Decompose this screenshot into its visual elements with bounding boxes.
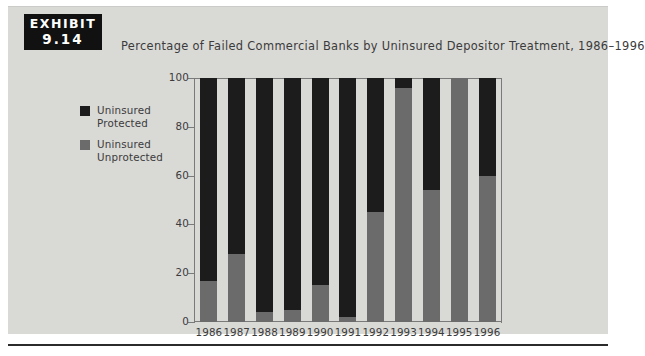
bottom-rule	[8, 344, 608, 346]
y-axis-tick-label: 20	[175, 266, 189, 278]
stacked-bar[interactable]	[423, 78, 440, 322]
x-axis-tick-label: 1990	[306, 326, 334, 338]
bar-segment-unprotected	[200, 281, 217, 322]
stacked-bar[interactable]	[395, 78, 412, 322]
bar-slot	[390, 78, 418, 322]
bar-segment-protected	[339, 78, 356, 317]
x-axis-tick-label: 1993	[390, 326, 418, 338]
bar-segment-unprotected	[367, 212, 384, 322]
exhibit-number: 9.14	[24, 31, 102, 47]
x-axis-tick-label: 1987	[223, 326, 251, 338]
x-axis-tick-label: 1994	[418, 326, 446, 338]
bar-segment-unprotected	[395, 88, 412, 322]
bar-slot	[362, 78, 390, 322]
bar-segment-unprotected	[339, 317, 356, 322]
bar-segment-protected	[228, 78, 245, 254]
bar-segment-protected	[256, 78, 273, 312]
bar-segment-unprotected	[228, 254, 245, 322]
plot-right-edge	[501, 78, 502, 323]
legend-item-unprotected: UninsuredUnprotected	[80, 138, 163, 163]
y-axis-tick-label: 40	[175, 217, 189, 229]
legend-swatch-unprotected-icon	[80, 140, 90, 150]
y-axis-tick-label: 100	[169, 71, 189, 83]
bar-group	[195, 78, 501, 322]
bar-slot	[195, 78, 223, 322]
plot-area: 020406080100	[194, 78, 501, 322]
legend-label-unprotected: UninsuredUnprotected	[97, 138, 163, 163]
bar-slot	[251, 78, 279, 322]
bar-segment-unprotected	[312, 285, 329, 322]
bar-segment-unprotected	[284, 310, 301, 322]
bar-slot	[334, 78, 362, 322]
bar-slot	[306, 78, 334, 322]
stacked-bar[interactable]	[200, 78, 217, 322]
stacked-bar[interactable]	[451, 78, 468, 322]
exhibit-tag: EXHIBIT 9.14	[24, 14, 102, 50]
bar-segment-protected	[479, 78, 496, 176]
stacked-bar[interactable]	[228, 78, 245, 322]
x-axis-tick-label: 1989	[278, 326, 306, 338]
legend-swatch-protected-icon	[80, 106, 90, 116]
bar-segment-unprotected	[423, 190, 440, 322]
x-axis-tick-label: 1995	[445, 326, 473, 338]
stacked-bar[interactable]	[367, 78, 384, 322]
bar-slot	[223, 78, 251, 322]
chart-panel: EXHIBIT 9.14 Percentage of Failed Commer…	[8, 6, 608, 334]
stacked-bar[interactable]	[479, 78, 496, 322]
bar-slot	[418, 78, 446, 322]
stacked-bar[interactable]	[339, 78, 356, 322]
bar-slot	[445, 78, 473, 322]
x-axis-tick-label: 1986	[195, 326, 223, 338]
x-axis-tick-label: 1996	[473, 326, 501, 338]
bar-segment-protected	[284, 78, 301, 310]
chart-legend: UninsuredProtected UninsuredUnprotected	[80, 104, 163, 172]
y-axis-tick-label: 80	[175, 120, 189, 132]
x-axis-tick-label: 1992	[362, 326, 390, 338]
bar-segment-unprotected	[256, 312, 273, 322]
stacked-bar[interactable]	[284, 78, 301, 322]
bar-segment-protected	[395, 78, 412, 88]
stacked-bar[interactable]	[256, 78, 273, 322]
x-axis-labels: 1986198719881989199019911992199319941995…	[195, 326, 501, 338]
bar-segment-protected	[367, 78, 384, 212]
x-axis-tick-label: 1988	[251, 326, 279, 338]
y-axis-tick-label: 0	[182, 315, 189, 327]
bar-segment-protected	[423, 78, 440, 190]
y-axis-tick-label: 60	[175, 169, 189, 181]
bar-slot	[278, 78, 306, 322]
bar-segment-unprotected	[479, 176, 496, 322]
x-axis-tick-label: 1991	[334, 326, 362, 338]
bar-segment-protected	[200, 78, 217, 281]
bar-slot	[473, 78, 501, 322]
exhibit-label: EXHIBIT	[24, 17, 102, 31]
legend-item-protected: UninsuredProtected	[80, 104, 163, 129]
stacked-bar[interactable]	[312, 78, 329, 322]
legend-label-protected: UninsuredProtected	[97, 104, 151, 129]
bar-segment-unprotected	[451, 78, 468, 322]
chart-title: Percentage of Failed Commercial Banks by…	[121, 39, 645, 53]
bar-segment-protected	[312, 78, 329, 285]
